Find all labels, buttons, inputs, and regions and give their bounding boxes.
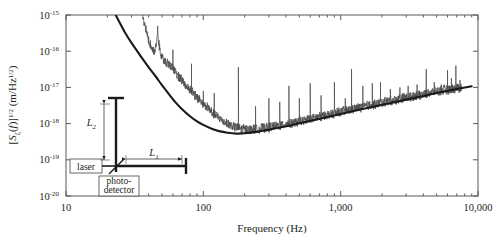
x-axis-title: Frequency (Hz)	[237, 222, 307, 235]
svg-text:[Sξ(f)]1/2 (m/Hz1/2): [Sξ(f)]1/2 (m/Hz1/2)	[6, 65, 21, 144]
y-tick-label: 10-20	[39, 190, 59, 202]
x-tick-label: 1,000	[329, 202, 353, 213]
x-tick-label: 100	[195, 202, 211, 213]
y-tick-label: 10-16	[39, 45, 59, 57]
chart-canvas: laser photo- detector L2 L1 101001,00010…	[0, 0, 501, 240]
laser-label: laser	[77, 162, 96, 172]
x-tick-marks	[66, 15, 478, 196]
x-tick-label: 10	[61, 202, 72, 213]
y-tick-label: 10-17	[39, 81, 59, 93]
L2-label: L2	[86, 117, 97, 131]
y-axis-title: [Sξ(f)]1/2 (m/Hz1/2)	[6, 65, 21, 144]
L1-label: L1	[148, 147, 158, 161]
y-tick-labels: 10-1510-1610-1710-1810-1910-20	[39, 9, 59, 202]
y-tick-label: 10-19	[39, 153, 59, 165]
plot-frame	[66, 15, 478, 196]
x-tick-label: 10,000	[464, 202, 493, 213]
figure-root: laser photo- detector L2 L1 101001,00010…	[0, 0, 501, 240]
interferometer-inset: laser photo- detector L2 L1	[70, 98, 186, 196]
y-tick-label: 10-15	[39, 9, 59, 21]
theoretical-noise-curve	[116, 15, 472, 134]
y-tick-marks	[66, 15, 478, 196]
y-tick-label: 10-18	[39, 117, 59, 129]
x-tick-labels: 101001,00010,000	[61, 202, 493, 213]
photodetector-label-line2: detector	[104, 185, 135, 195]
